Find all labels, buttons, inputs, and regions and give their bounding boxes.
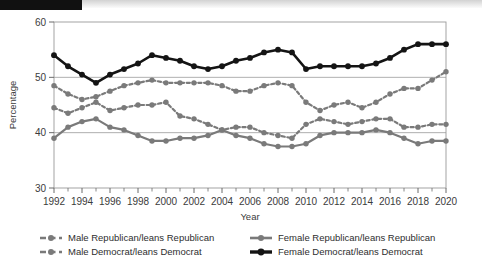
- data-point: [233, 58, 239, 64]
- x-tick-label: 2002: [183, 196, 206, 207]
- data-point: [93, 94, 98, 99]
- data-point: [247, 136, 252, 141]
- data-point: [443, 122, 448, 127]
- top-decorative-bar: [0, 0, 482, 11]
- x-tick-label: 2004: [211, 196, 234, 207]
- data-point: [317, 133, 322, 138]
- data-point: [191, 116, 196, 121]
- data-point: [387, 91, 392, 96]
- data-point: [415, 141, 420, 146]
- data-point: [79, 105, 84, 110]
- data-point: [135, 80, 140, 85]
- data-point: [51, 52, 57, 58]
- data-point: [65, 124, 70, 129]
- legend-item[interactable]: Male Republican/leans Republican: [40, 232, 214, 243]
- data-point: [65, 63, 71, 69]
- data-point: [177, 58, 183, 64]
- data-point: [289, 83, 294, 88]
- legend-item[interactable]: Male Democrat/leans Democrat: [40, 246, 202, 257]
- data-point: [387, 55, 393, 61]
- legend-item[interactable]: Female Democrat/leans Democrat: [250, 246, 423, 257]
- data-point: [443, 138, 448, 143]
- data-point: [345, 122, 350, 127]
- data-point: [401, 136, 406, 141]
- data-point: [219, 83, 224, 88]
- data-point: [51, 105, 56, 110]
- y-tick-label: 60: [35, 17, 47, 28]
- data-point: [121, 83, 126, 88]
- data-point: [107, 108, 112, 113]
- data-point: [247, 88, 252, 93]
- data-point: [93, 100, 98, 105]
- legend-marker: [258, 235, 264, 241]
- x-tick-label: 2014: [351, 196, 374, 207]
- legend-marker: [48, 235, 54, 241]
- data-point: [121, 66, 127, 72]
- y-tick-label: 50: [35, 72, 47, 83]
- legend-marker: [48, 249, 54, 255]
- data-point: [359, 119, 364, 124]
- data-point: [107, 88, 112, 93]
- data-point: [261, 141, 266, 146]
- data-point: [205, 133, 210, 138]
- data-point: [289, 50, 295, 56]
- legend-label: Female Republican/leans Republican: [278, 232, 435, 243]
- data-point: [51, 83, 56, 88]
- data-point: [65, 91, 70, 96]
- y-axis-title: Percentage: [7, 81, 18, 130]
- line-chart: 30405060Percentage1992199419961998200020…: [0, 11, 482, 271]
- x-tick-label: 2006: [239, 196, 262, 207]
- data-point: [303, 100, 308, 105]
- data-point: [79, 97, 84, 102]
- data-point: [345, 100, 350, 105]
- data-point: [303, 122, 308, 127]
- data-point: [261, 50, 267, 56]
- data-point: [149, 52, 155, 58]
- data-point: [401, 86, 406, 91]
- y-tick-label: 30: [35, 183, 47, 194]
- data-point: [275, 47, 281, 53]
- x-tick-label: 2000: [155, 196, 178, 207]
- x-tick-label: 2016: [379, 196, 402, 207]
- data-point: [401, 124, 406, 129]
- data-point: [317, 108, 322, 113]
- data-point: [163, 138, 168, 143]
- data-point: [289, 136, 294, 141]
- data-point: [219, 127, 224, 132]
- data-point: [135, 61, 141, 67]
- data-point: [331, 130, 336, 135]
- data-point: [345, 63, 351, 69]
- x-tick-label: 2010: [295, 196, 318, 207]
- data-point: [149, 77, 154, 82]
- data-point: [135, 133, 140, 138]
- data-point: [233, 124, 238, 129]
- data-point: [177, 80, 182, 85]
- top-bar-gray-segment: [82, 0, 482, 8]
- data-point: [247, 55, 253, 61]
- chart-svg: 30405060Percentage1992199419961998200020…: [0, 11, 482, 271]
- legend-item[interactable]: Female Republican/leans Republican: [250, 232, 435, 243]
- data-point: [65, 111, 70, 116]
- data-point: [429, 122, 434, 127]
- data-point: [149, 102, 154, 107]
- data-point: [317, 63, 323, 69]
- data-point: [345, 130, 350, 135]
- data-point: [121, 127, 126, 132]
- data-point: [191, 80, 196, 85]
- legend-label: Female Democrat/leans Democrat: [278, 246, 423, 257]
- data-point: [51, 136, 56, 141]
- data-point: [317, 116, 322, 121]
- x-tick-label: 2018: [407, 196, 430, 207]
- data-point: [163, 80, 168, 85]
- data-point: [373, 116, 378, 121]
- data-point: [205, 66, 211, 72]
- legend-label: Male Republican/leans Republican: [68, 232, 214, 243]
- data-point: [107, 124, 112, 129]
- data-point: [79, 119, 84, 124]
- data-point: [261, 83, 266, 88]
- data-point: [177, 113, 182, 118]
- data-point: [373, 100, 378, 105]
- data-point: [107, 72, 113, 78]
- data-point: [387, 116, 392, 121]
- data-point: [247, 124, 252, 129]
